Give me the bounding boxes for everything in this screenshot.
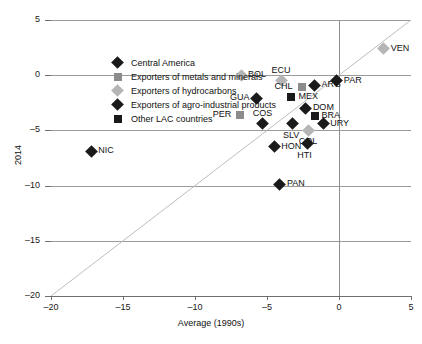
data-point-label-arg: ARG <box>322 79 342 89</box>
x-tick <box>51 296 52 300</box>
legend-item-0[interactable]: Central America <box>111 56 276 69</box>
data-point-label-chl: CHL <box>275 81 293 91</box>
y-tick-label: 5 <box>0 14 40 24</box>
y-axis-title: 2014 <box>13 125 23 185</box>
diamond-marker-icon <box>111 86 124 95</box>
diamond-marker-icon <box>111 100 124 109</box>
data-point-label-par: PAR <box>344 75 362 85</box>
x-axis-title: Average (1990s) <box>0 318 422 328</box>
legend-item-4[interactable]: Other LAC countries <box>111 112 276 125</box>
x-tick <box>339 296 340 300</box>
y-tick <box>45 186 51 187</box>
y-tick <box>45 130 51 131</box>
legend-item-2[interactable]: Exporters of hydrocarbons <box>111 84 276 97</box>
x-tick-label: –15 <box>103 302 143 312</box>
square-marker-icon <box>111 73 124 81</box>
y-tick-label: –20 <box>0 290 40 300</box>
legend-item-3[interactable]: Exporters of agro-industrial products <box>111 98 276 111</box>
x-tick <box>267 296 268 300</box>
x-tick-label: –5 <box>247 302 287 312</box>
data-point-label-mex: MEX <box>298 91 318 101</box>
x-tick-label: 5 <box>391 302 422 312</box>
x-tick <box>123 296 124 300</box>
data-point-bra <box>311 112 319 120</box>
y-tick-label: –15 <box>0 235 40 245</box>
y-tick <box>45 20 51 21</box>
legend-label: Exporters of metals and minerals <box>131 72 263 82</box>
y-tick <box>45 75 51 76</box>
legend-label: Exporters of agro-industrial products <box>131 100 276 110</box>
x-tick <box>411 296 412 300</box>
x-axis-line <box>51 296 411 297</box>
square-marker-icon <box>111 115 124 123</box>
data-point-mex <box>287 93 295 101</box>
legend-label: Other LAC countries <box>131 114 213 124</box>
x-tick <box>195 296 196 300</box>
legend-label: Central America <box>131 58 195 68</box>
plot-area: VENBOLECUPARARGCHLMEXGUADOMBRAPERCOSURYS… <box>51 20 411 296</box>
data-point-label-slv: SLV <box>283 130 299 140</box>
data-point-label-hon: HON <box>281 141 301 151</box>
y-tick <box>45 296 51 297</box>
chart-legend: Central AmericaExporters of metals and m… <box>111 56 276 126</box>
data-point-label-hti: HTI <box>297 150 312 160</box>
data-point-label-ury: URY <box>330 118 349 128</box>
x-tick-label: –10 <box>175 302 215 312</box>
y-tick <box>45 241 51 242</box>
data-point-label-nic: NIC <box>98 145 114 155</box>
legend-label: Exporters of hydrocarbons <box>131 86 237 96</box>
data-point-label-pan: PAN <box>287 178 305 188</box>
x-tick-label: 0 <box>319 302 359 312</box>
scatter-chart: VENBOLECUPARARGCHLMEXGUADOMBRAPERCOSURYS… <box>0 0 422 344</box>
diamond-marker-icon <box>111 58 124 67</box>
legend-item-1[interactable]: Exporters of metals and minerals <box>111 70 276 83</box>
x-tick-label: –20 <box>31 302 71 312</box>
data-point-label-ven: VEN <box>391 43 410 53</box>
data-point-chl <box>298 83 306 91</box>
y-tick-label: 0 <box>0 69 40 79</box>
